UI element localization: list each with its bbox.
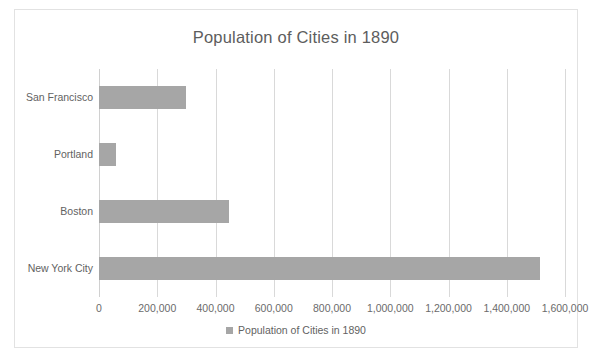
x-axis-tick-label: 800,000 xyxy=(313,302,351,314)
x-axis-tick-label: 1,600,000 xyxy=(542,302,589,314)
x-axis-tick-labels: 0200,000400,000600,000800,0001,000,0001,… xyxy=(99,302,565,318)
bar[interactable] xyxy=(99,143,116,166)
legend-swatch-icon xyxy=(226,327,233,334)
x-axis-tick-label: 1,200,000 xyxy=(425,302,472,314)
chart-legend: Population of Cities in 1890 xyxy=(15,324,577,336)
bar-row xyxy=(99,240,565,297)
legend-label: Population of Cities in 1890 xyxy=(238,324,366,336)
x-axis-tick-label: 600,000 xyxy=(255,302,293,314)
x-axis-tick-label: 1,000,000 xyxy=(367,302,414,314)
x-axis-tick-label: 200,000 xyxy=(138,302,176,314)
x-axis-tick-label: 400,000 xyxy=(197,302,235,314)
plot-area xyxy=(99,69,565,297)
x-axis-tick-label: 0 xyxy=(96,302,102,314)
x-axis-tick-label: 1,400,000 xyxy=(483,302,530,314)
y-axis-label: San Francisco xyxy=(0,91,93,103)
gridline-8 xyxy=(565,69,566,297)
bar-row xyxy=(99,126,565,183)
chart-container: Population of Cities in 1890 San Francis… xyxy=(14,9,578,348)
y-axis-label: New York City xyxy=(0,262,93,274)
y-axis-label: Portland xyxy=(0,148,93,160)
chart-title: Population of Cities in 1890 xyxy=(15,28,577,47)
y-axis-category-labels: San FranciscoPortlandBostonNew York City xyxy=(15,69,93,297)
bar-row xyxy=(99,183,565,240)
bar[interactable] xyxy=(99,86,186,109)
bar[interactable] xyxy=(99,257,540,280)
bar-row xyxy=(99,69,565,126)
bar[interactable] xyxy=(99,200,229,223)
y-axis-label: Boston xyxy=(0,205,93,217)
